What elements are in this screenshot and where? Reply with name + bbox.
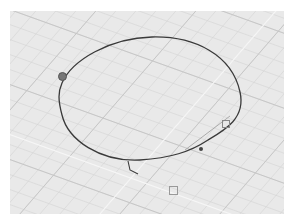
perspective-viewport[interactable]: Perspective bbox=[10, 11, 284, 214]
closed-curve bbox=[59, 37, 241, 160]
control-point-left[interactable] bbox=[58, 72, 67, 81]
control-point-middle[interactable] bbox=[199, 147, 203, 151]
control-point-right[interactable] bbox=[222, 120, 230, 128]
control-point-bottom[interactable] bbox=[169, 186, 178, 195]
grid-canvas bbox=[10, 11, 284, 214]
